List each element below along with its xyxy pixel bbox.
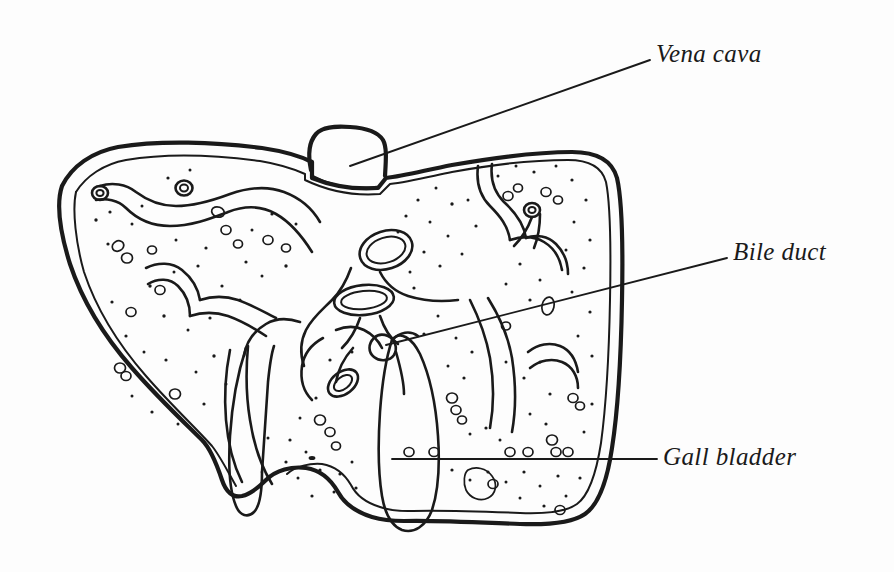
label-gall-bladder: Gall bladder [663, 443, 796, 471]
vena-cava-lumen [354, 224, 417, 277]
parenchyma-stippling [94, 165, 593, 508]
bile-duct-lumen [323, 364, 363, 402]
right-lobe-vessels [470, 164, 578, 432]
label-bile-duct: Bile duct [733, 238, 826, 266]
label-vena-cava: Vena cava [656, 40, 762, 68]
liver-outer-contour [59, 143, 622, 525]
liver-diagram-figure: .ink { fill:none; stroke:#1a1a1a; stroke… [0, 0, 894, 572]
gall-bladder [379, 333, 439, 532]
liver-drawing: .ink { fill:none; stroke:#1a1a1a; stroke… [0, 0, 894, 572]
micro-vessel-lumens [110, 184, 584, 515]
leader-line-vena-cava [350, 60, 650, 166]
